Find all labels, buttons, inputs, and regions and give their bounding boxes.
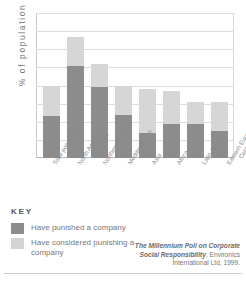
key-item: Have punished a company <box>11 223 239 234</box>
bar-segment-considered <box>139 89 156 133</box>
bar-segment-considered <box>187 102 204 124</box>
bar <box>43 86 60 159</box>
bar <box>163 91 180 158</box>
key-swatch-considered <box>11 238 24 249</box>
bar-segment-considered <box>211 102 228 131</box>
bar-segment-considered <box>67 37 84 66</box>
bar-segment-punished <box>187 124 204 158</box>
bar-segment-considered <box>91 64 108 88</box>
bar-segment-punished <box>163 124 180 158</box>
key-item-label: Have punished a company <box>31 223 126 233</box>
y-axis-title: % of population <box>17 0 27 105</box>
bar-segment-considered <box>163 91 180 124</box>
bar-segment-considered <box>43 86 60 117</box>
bar-segment-considered <box>115 86 132 115</box>
x-axis-labels: Total populationNorth America/OceaniaNor… <box>36 160 234 208</box>
bar <box>187 102 204 158</box>
stacked-bar-chart: % of population 01020304050607080 Total … <box>0 0 246 200</box>
source-citation: The Millennium Poll on Corporate Social … <box>122 242 240 268</box>
key-swatch-punished <box>11 223 24 234</box>
bottom-divider <box>4 273 242 274</box>
chart-page: % of population 01020304050607080 Total … <box>0 0 246 282</box>
key-title: KEY <box>11 207 239 216</box>
